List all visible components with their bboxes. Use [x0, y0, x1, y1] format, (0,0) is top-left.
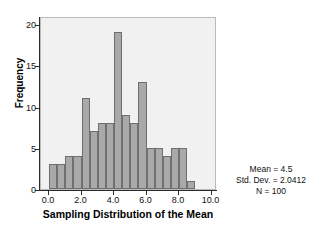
histogram-figure: 05101520 0.02.04.06.08.010.0 Frequency S… [0, 0, 317, 237]
stats-std-dev: Std. Dev. = 2.0412 [228, 175, 314, 186]
histogram-bar [147, 148, 155, 189]
histogram-bar [187, 181, 195, 189]
histogram-bar [122, 115, 130, 189]
x-axis-title: Sampling Distribution of the Mean [22, 209, 234, 220]
histogram-bar [73, 156, 81, 189]
y-tick-label: 0 [0, 186, 36, 195]
plot-panel [40, 17, 216, 190]
y-axis-line [39, 17, 40, 191]
histogram-bar [171, 148, 179, 189]
histogram-bar [155, 148, 163, 189]
x-tick-label: 10.0 [191, 196, 231, 205]
x-axis-line [39, 190, 217, 191]
stats-annotation: Mean = 4.5 Std. Dev. = 2.0412 N = 100 [228, 164, 314, 197]
histogram-bar [114, 32, 122, 189]
histogram-bar [65, 156, 73, 189]
histogram-bar [49, 164, 57, 189]
histogram-bar [130, 123, 138, 189]
stats-mean: Mean = 4.5 [228, 164, 314, 175]
histogram-bar [57, 164, 65, 189]
stats-n: N = 100 [228, 186, 314, 197]
y-axis-title: Frequency [15, 23, 25, 143]
histogram-bar [106, 123, 114, 189]
histogram-bar [163, 156, 171, 189]
histogram-bar [98, 123, 106, 189]
histogram-bar [90, 131, 98, 189]
histogram-bar [138, 82, 146, 189]
histogram-bars [41, 18, 215, 189]
histogram-bar [82, 98, 90, 189]
histogram-bar [179, 148, 187, 189]
y-tick-label: 5 [0, 145, 36, 154]
